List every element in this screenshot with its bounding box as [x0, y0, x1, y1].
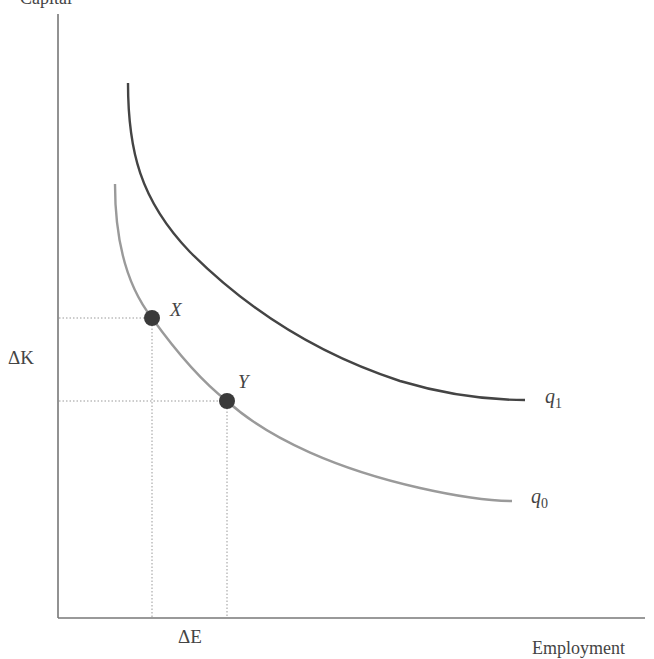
q1-label: q1	[545, 385, 562, 411]
point-y-label: Y	[238, 371, 251, 392]
guide-lines	[59, 318, 227, 618]
delta-e-label: ΔE	[178, 626, 202, 647]
point-x-label: X	[169, 299, 183, 320]
q0-label: q0	[531, 485, 548, 511]
point-x-marker	[144, 310, 160, 326]
y-axis-label: Capital	[20, 0, 72, 8]
isoquant-q1	[128, 83, 525, 400]
point-y-marker	[219, 393, 235, 409]
isoquant-diagram: Capital X Y q1 q0 ΔK ΔE Employment	[0, 0, 654, 659]
isoquant-q0	[115, 184, 512, 501]
x-axis-label: Employment	[532, 638, 625, 658]
delta-k-label: ΔK	[8, 347, 34, 368]
